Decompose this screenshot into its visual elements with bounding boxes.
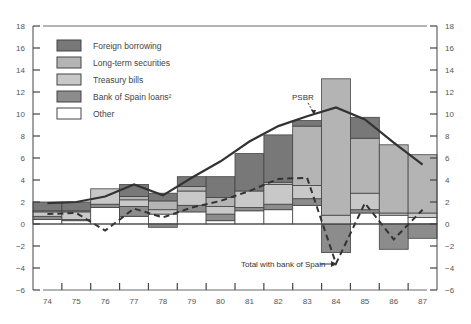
y-tick-label-left: 8 [21, 132, 26, 141]
bar-segment [379, 224, 408, 249]
y-tick-label-right: 4 [445, 176, 450, 185]
legend-label: Treasury bills [93, 75, 143, 85]
x-tick-label: 86 [389, 297, 398, 306]
bar-segment [379, 215, 408, 224]
bar-segment [350, 138, 379, 193]
bar-segment [148, 201, 177, 210]
y-tick-label-right: 8 [445, 132, 450, 141]
bar-segment [293, 199, 322, 206]
y-tick-label-right: 2 [445, 198, 450, 207]
x-tick-label: 78 [158, 297, 167, 306]
y-tick-label-right: 10 [445, 110, 454, 119]
y-tick-label-left: 2 [21, 198, 26, 207]
bar-segment [322, 215, 351, 224]
y-tick-label-left: −4 [16, 264, 26, 273]
bar-segment [120, 206, 149, 216]
bar-segment [235, 154, 264, 191]
legend-swatch [57, 57, 81, 68]
legend-label: Other [93, 109, 114, 119]
bar-segment [177, 205, 206, 212]
legend-swatch [57, 74, 81, 85]
y-tick-label-right: 6 [445, 154, 450, 163]
bar-segment [91, 204, 120, 207]
x-tick-label: 77 [130, 297, 139, 306]
x-tick-label: 82 [274, 297, 283, 306]
bar-segment [148, 214, 177, 224]
x-tick-label: 87 [418, 297, 427, 306]
bar-segment [206, 198, 235, 207]
bar-segment [235, 211, 264, 224]
bar-segment [177, 212, 206, 224]
bar-segment [235, 191, 264, 208]
y-tick-label-right: −2 [445, 242, 455, 251]
bar-stacks [33, 79, 437, 253]
legend-label: Foreign borrowing [93, 41, 162, 51]
bar-segment [91, 208, 120, 225]
bar-segment [264, 204, 293, 210]
y-tick-label-right: 18 [445, 22, 454, 31]
x-tick-label: 85 [360, 297, 369, 306]
y-tick-label-left: 10 [16, 110, 25, 119]
bar-segment [264, 184, 293, 204]
x-tick-label: 84 [332, 297, 341, 306]
y-tick-label-left: 16 [16, 44, 25, 53]
bar-segment [408, 213, 437, 217]
bar-segment [322, 79, 351, 215]
bar-segment [120, 197, 149, 200]
x-tick-label: 79 [187, 297, 196, 306]
bar-segment [293, 126, 322, 185]
bar-segment [206, 214, 235, 221]
y-tick-label-right: 14 [445, 66, 454, 75]
legend-swatch [57, 40, 81, 51]
y-tick-label-left: −2 [16, 242, 26, 251]
bar-segment [293, 186, 322, 199]
bar-segment [235, 208, 264, 211]
x-tick-label: 76 [101, 297, 110, 306]
y-tick-label-right: −6 [445, 286, 455, 295]
y-tick-label-left: 6 [21, 154, 26, 163]
bar-segment [379, 145, 408, 213]
y-tick-label-left: 14 [16, 66, 25, 75]
x-tick-label: 80 [216, 297, 225, 306]
y-tick-label-left: 12 [16, 88, 25, 97]
y-tick-label-right: 12 [445, 88, 454, 97]
chart-canvas: 181816161414121210108866442200−2−2−4−4−6… [0, 0, 471, 324]
bar-segment [293, 121, 322, 127]
y-tick-label-right: 0 [445, 220, 450, 229]
legend-label: Bank of Spain loans² [93, 92, 172, 102]
bar-segment [206, 206, 235, 214]
y-tick-label-left: 4 [21, 176, 26, 185]
bar-segment [206, 177, 235, 198]
bar-segment [33, 216, 62, 219]
bar-segment [177, 187, 206, 191]
x-tick-label: 74 [43, 297, 52, 306]
bar-segment [264, 210, 293, 224]
x-tick-label: 81 [245, 297, 254, 306]
bar-segment [322, 224, 351, 253]
bar-segment [120, 200, 149, 207]
bar-segment [33, 220, 62, 224]
bar-segment [350, 210, 379, 213]
y-tick-label-right: 16 [445, 44, 454, 53]
x-tick-label: 75 [72, 297, 81, 306]
x-tick-label: 83 [303, 297, 312, 306]
bar-segment [120, 184, 149, 196]
y-tick-label-left: 18 [16, 22, 25, 31]
y-tick-label-right: −4 [445, 264, 455, 273]
legend-label: Long-term securities [93, 58, 170, 68]
legend: Foreign borrowingLong-term securitiesTre… [57, 40, 172, 119]
y-tick-label-left: 0 [21, 220, 26, 229]
legend-swatch [57, 91, 81, 102]
bar-segment [408, 224, 437, 238]
bar-segment [177, 191, 206, 205]
psbr-label: PSBR [292, 93, 314, 102]
total-with-bank-label: Total with bank of Spain [241, 260, 326, 269]
legend-swatch [57, 108, 81, 119]
y-tick-label-left: −6 [16, 286, 26, 295]
bar-segment [350, 193, 379, 210]
bar-segment [264, 135, 293, 182]
